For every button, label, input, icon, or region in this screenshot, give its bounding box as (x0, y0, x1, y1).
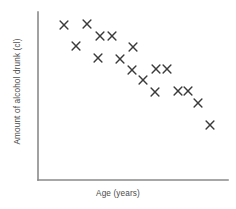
data-point-marker (163, 65, 171, 73)
axes-group (38, 12, 228, 180)
data-point-marker (174, 87, 182, 95)
data-point-marker (151, 88, 159, 96)
data-point-marker (116, 55, 124, 63)
data-point-marker (72, 42, 80, 50)
data-point-marker (108, 32, 116, 40)
data-point-marker (206, 121, 214, 129)
data-point-marker (128, 66, 136, 74)
x-axis-label: Age (years) (0, 189, 236, 198)
data-point-marker (194, 99, 202, 107)
data-point-marker (139, 76, 147, 84)
data-point-marker (184, 87, 192, 95)
plot-area (0, 0, 236, 209)
scatter-plot-figure: Amount of alcohol drunk (cl) Age (years) (0, 0, 236, 209)
data-point-marker (129, 43, 137, 51)
data-point-marker (83, 20, 91, 28)
y-axis-label: Amount of alcohol drunk (cl) (13, 38, 22, 144)
data-point-marker (96, 32, 104, 40)
data-markers-group (60, 20, 214, 129)
data-point-marker (60, 21, 68, 29)
data-point-marker (152, 65, 160, 73)
y-axis-label-container: Amount of alcohol drunk (cl) (0, 0, 34, 182)
data-point-marker (94, 54, 102, 62)
